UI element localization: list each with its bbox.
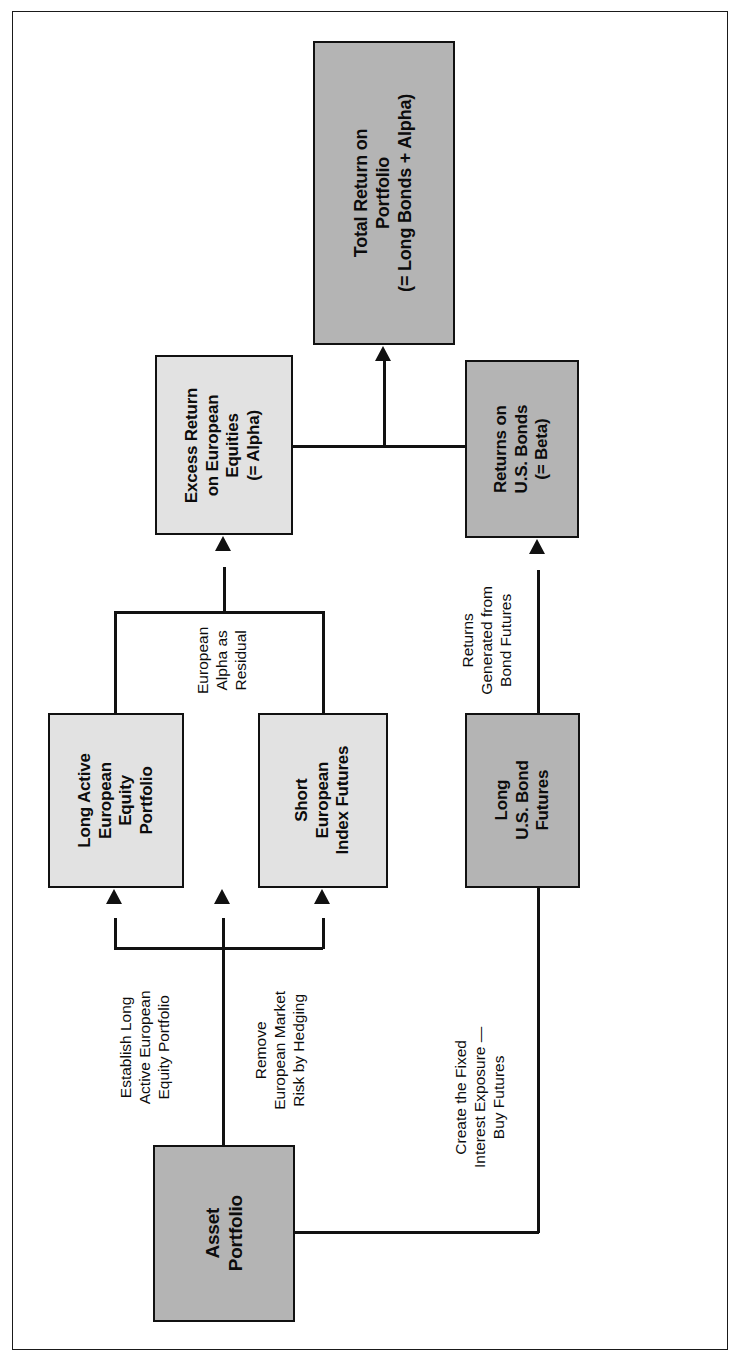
edge-label-european-alpha-as-residual-wrap: European Alpha as Residual — [150, 600, 295, 720]
connector-riser-long-active-equity — [114, 918, 117, 949]
connector-alpha-beta-merge-bar — [293, 445, 467, 448]
connector-leg-long-active-equity — [114, 611, 117, 715]
edge-label-returns-generated-from-bond-futures-wrap: Returns Generated from Bond Futures — [437, 565, 537, 715]
connector-asset-fanout-bar — [114, 947, 323, 950]
node-returns-on-us-bonds[interactable]: Returns on U.S. Bonds (= Beta) — [465, 360, 579, 538]
arrow-asset-portfolio-center — [214, 889, 230, 904]
edge-label-european-alpha-as-residual: European Alpha as Residual — [194, 626, 251, 693]
arrow-into-returns-on-us-bonds — [529, 539, 545, 554]
node-excess-return-on-european-equities[interactable]: Excess Return on European Equities (= Al… — [155, 355, 293, 535]
edge-label-remove-european-market-risk-by-hedging-wrap: Remove European Market Risk by Hedging — [228, 960, 333, 1140]
edge-label-create-the-fixed-interest-exposure-wrap: Create the Fixed Interest Exposure — Buy… — [428, 1000, 533, 1195]
node-long-us-bond-futures[interactable]: Long U.S. Bond Futures — [465, 713, 580, 888]
node-asset-portfolio[interactable]: Asset Portfolio — [153, 1145, 295, 1322]
connector-leg-short-index-futures — [322, 611, 325, 715]
edge-label-remove-european-market-risk-by-hedging: Remove European Market Risk by Hedging — [252, 991, 309, 1110]
connector-asset-to-bond-futures-horizontal — [293, 1231, 539, 1234]
connector-riser-short-index-futures — [322, 918, 325, 949]
node-total-return-on-portfolio-label: Total Return on Portfolio (= Long Bonds … — [351, 94, 417, 292]
node-long-active-european-equity-portfolio[interactable]: Long Active European Equity Portfolio — [48, 713, 184, 888]
node-long-active-european-equity-portfolio-label: Long Active European Equity Portfolio — [75, 753, 158, 847]
arrow-into-short-european-index-futures — [314, 889, 330, 904]
node-asset-portfolio-label: Asset Portfolio — [201, 1195, 247, 1271]
node-excess-return-on-european-equities-label: Excess Return on European Equities (= Al… — [183, 387, 266, 503]
edge-label-create-the-fixed-interest-exposure-buy-futures: Create the Fixed Interest Exposure — Buy… — [452, 1027, 509, 1168]
node-total-return-on-portfolio[interactable]: Total Return on Portfolio (= Long Bonds … — [313, 41, 455, 345]
diagram-canvas: Total Return on Portfolio (= Long Bonds … — [0, 0, 739, 1370]
edge-label-returns-generated-from-bond-futures: Returns Generated from Bond Futures — [459, 586, 516, 695]
connector-asset-to-bond-futures-vertical — [537, 888, 540, 1233]
node-short-european-index-futures[interactable]: Short European Index Futures — [258, 713, 388, 888]
node-returns-on-us-bonds-label: Returns on U.S. Bonds (= Beta) — [491, 405, 553, 494]
node-short-european-index-futures-label: Short European Index Futures — [292, 746, 354, 855]
connector-merge-to-total-return-line — [383, 360, 386, 447]
arrow-into-total-return — [375, 346, 391, 361]
edge-label-establish-long-active-european-equity-portfolio: Establish Long Active European Equity Po… — [116, 991, 173, 1105]
node-long-us-bond-futures-label: Long U.S. Bond Futures — [491, 761, 553, 840]
edge-label-establish-long-active-european-equity-portfolio-wrap: Establish Long Active European Equity Po… — [92, 960, 197, 1135]
arrow-into-long-active-european-equity-portfolio — [106, 889, 122, 904]
arrow-into-excess-return — [215, 536, 231, 551]
